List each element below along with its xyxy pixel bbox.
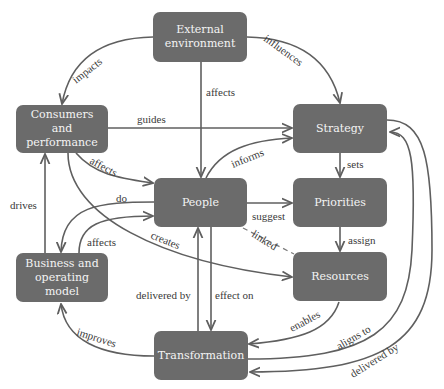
diagram: impacts influences affects guides inform… (0, 0, 444, 389)
node-strategy-label: Strategy (316, 122, 364, 136)
node-priorities: Priorities (293, 178, 387, 227)
node-external-line1: External (176, 23, 224, 37)
label-enables: enables (287, 308, 322, 334)
node-external-line2: environment (165, 37, 236, 51)
label-improves: improves (75, 325, 118, 349)
label-do: do (116, 192, 128, 204)
label-influences: influences (262, 32, 306, 68)
label-delivered-by-strategy: delivered by (348, 340, 401, 379)
node-consumers-and-performance: Consumers and performance (16, 105, 108, 153)
node-strategy: Strategy (293, 104, 387, 153)
label-affects-consumers: affects (88, 154, 119, 178)
node-consumers-line2: performance (26, 136, 98, 150)
node-business-and-operating-model: Business and operating model (16, 253, 108, 302)
label-suggest: suggest (252, 210, 285, 222)
node-resources-label: Resources (311, 270, 369, 284)
node-people: People (154, 178, 247, 227)
node-people-label: People (182, 196, 219, 210)
node-consumers-line1: Consumers and (20, 108, 104, 136)
edge-improves (61, 304, 154, 356)
label-assign: assign (348, 234, 376, 246)
edge-influences (247, 37, 340, 103)
label-aligns-to: aligns to (334, 322, 373, 351)
label-sets: sets (347, 158, 364, 170)
label-affects-business: affects (87, 236, 116, 248)
node-priorities-label: Priorities (314, 196, 366, 210)
node-resources: Resources (293, 252, 387, 301)
node-external-environment: External environment (153, 12, 247, 62)
label-effect-on: effect on (215, 289, 254, 301)
label-linked: linked (250, 228, 280, 253)
node-business-line1: Business and (25, 257, 98, 271)
node-transformation: Transformation (154, 331, 248, 380)
label-delivered-by-people: delivered by (136, 289, 191, 301)
label-guides: guides (137, 113, 166, 125)
label-affects-external: affects (206, 86, 235, 98)
node-business-line2: operating model (20, 271, 104, 299)
node-transformation-label: Transformation (158, 349, 244, 363)
label-drives: drives (10, 199, 37, 211)
